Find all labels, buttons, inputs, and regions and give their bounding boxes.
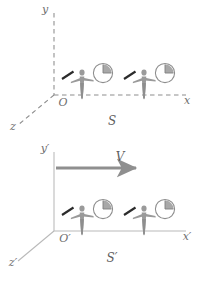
velocity-label: V <box>116 150 126 164</box>
diagonal-rod-icon <box>62 208 74 216</box>
clock-3-icon <box>93 199 112 218</box>
clock-2-icon <box>155 63 174 82</box>
origin-prime-label: O′ <box>59 232 71 245</box>
origin-label: O <box>58 96 67 109</box>
frame-s-prime-label: S′ <box>107 251 118 265</box>
frame-s: y x z O S <box>9 3 191 133</box>
velocity-arrow: V <box>56 150 136 168</box>
observer-1 <box>62 63 113 99</box>
z-axis <box>18 95 54 125</box>
clock-4-icon <box>155 199 174 218</box>
z-prime-axis-label: z′ <box>8 256 18 269</box>
relativity-frames-figure: y x z O S <box>0 0 200 281</box>
frame-s-prime: y′ x′ z′ O′ V S′ <box>8 142 192 269</box>
observer-2 <box>124 63 175 99</box>
z-prime-axis <box>18 231 54 261</box>
frame-s-label: S <box>108 114 116 128</box>
observer-4 <box>124 199 175 235</box>
diagonal-rod-icon <box>124 208 136 216</box>
clock-1-icon <box>93 63 112 82</box>
y-prime-axis-label: y′ <box>40 142 50 155</box>
y-axis-label: y <box>41 3 49 16</box>
x-prime-axis-label: x′ <box>183 230 192 243</box>
observer-3 <box>62 199 113 235</box>
z-axis-label: z <box>9 120 16 133</box>
diagram-canvas: y x z O S <box>0 0 200 281</box>
diagonal-rod-icon <box>62 72 74 80</box>
diagonal-rod-icon <box>124 72 136 80</box>
x-axis-label: x <box>184 94 191 107</box>
